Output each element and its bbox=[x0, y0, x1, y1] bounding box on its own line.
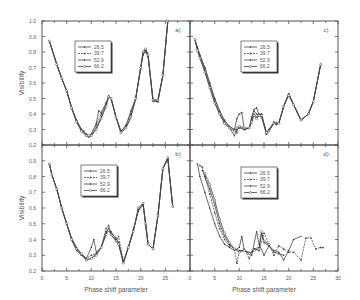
y-tick-label: 0.8 bbox=[29, 49, 36, 55]
legend-entry: 26.5 bbox=[94, 44, 104, 50]
y-tick-label: 0.4 bbox=[29, 111, 36, 117]
y-tick-label: 0.6 bbox=[29, 80, 36, 86]
panel-label: d) bbox=[323, 151, 328, 157]
legend-entry: 39.7 bbox=[94, 50, 104, 56]
legend-entry: 52.9 bbox=[100, 181, 110, 187]
legend-box bbox=[81, 165, 117, 196]
x-tick-label: 25 bbox=[163, 275, 169, 281]
x-tick-label: 20 bbox=[138, 275, 144, 281]
series-39-7 bbox=[49, 21, 167, 136]
x-tick-label: 25 bbox=[311, 275, 317, 281]
legend-box bbox=[241, 167, 277, 198]
legend-entry: 26.5 bbox=[260, 44, 270, 50]
x-tick-label: 5 bbox=[65, 275, 68, 281]
x-axis-title: Phase shift parameter bbox=[84, 286, 148, 294]
legend-entry: 26.5 bbox=[260, 170, 270, 176]
panel-label: c) bbox=[324, 27, 329, 33]
legends: 26.539.752.966.226.539.752.966.226.539.7… bbox=[75, 41, 279, 200]
panel-label: a) bbox=[175, 27, 180, 33]
panel-label: b) bbox=[175, 151, 180, 157]
x-tick-label: 5 bbox=[213, 275, 216, 281]
y-tick-label: 0.7 bbox=[29, 189, 36, 195]
legend-entry: 39.7 bbox=[260, 176, 270, 182]
y-tick-label: 0.5 bbox=[29, 221, 36, 227]
x-tick-label: 20 bbox=[286, 275, 292, 281]
x-tick-label: 15 bbox=[261, 275, 267, 281]
legend-entry: 52.9 bbox=[94, 57, 104, 63]
legend-box bbox=[241, 41, 277, 72]
legend-entry: 66.2 bbox=[100, 187, 110, 193]
series-26-5 bbox=[49, 21, 167, 136]
x-tick-label: 10 bbox=[237, 275, 243, 281]
y-axis-title: Visibility bbox=[18, 195, 26, 221]
y-tick-label: 0.5 bbox=[29, 96, 36, 102]
x-tick-label: 30 bbox=[335, 275, 341, 281]
panel-frame-d bbox=[190, 145, 338, 271]
y-tick-label: 0.2 bbox=[29, 268, 36, 274]
x-tick-label: 15 bbox=[113, 275, 119, 281]
series-66-2 bbox=[49, 21, 167, 136]
x-axis-title: Phase shift parameter bbox=[232, 286, 296, 294]
legend-entry: 66.2 bbox=[260, 189, 270, 195]
panel-frame-b bbox=[42, 145, 190, 271]
series-52-9 bbox=[49, 21, 167, 137]
y-tick-label: 0.3 bbox=[29, 252, 36, 258]
y-tick-label: 0.7 bbox=[29, 65, 36, 71]
y-axis-title: Visibility bbox=[18, 70, 26, 96]
legend-entry: 52.9 bbox=[260, 183, 270, 189]
y-tick-label: 0.4 bbox=[29, 237, 36, 243]
legend-entry: 52.9 bbox=[260, 57, 270, 63]
legend-entry: 39.7 bbox=[260, 50, 270, 56]
panel-frame-a bbox=[42, 21, 190, 145]
y-tick-label: 0.6 bbox=[29, 205, 36, 211]
axis-labels: 0.20.30.40.50.60.70.80.91.0Visibilitya)0… bbox=[18, 18, 341, 294]
y-tick-label: 0.9 bbox=[29, 34, 36, 40]
x-tick-label: 10 bbox=[89, 275, 95, 281]
legend-box bbox=[75, 41, 111, 72]
legend-entry: 66.2 bbox=[260, 63, 270, 69]
legend-entry: 66.2 bbox=[94, 63, 104, 69]
legend-entry: 26.5 bbox=[100, 168, 110, 174]
x-tick-label: 0 bbox=[189, 275, 192, 281]
x-tick-label: 0 bbox=[41, 275, 44, 281]
y-tick-label: 0.3 bbox=[29, 127, 36, 133]
y-tick-label: 0.8 bbox=[29, 174, 36, 180]
legend-entry: 39.7 bbox=[100, 174, 110, 180]
y-tick-label: 0.9 bbox=[29, 158, 36, 164]
figure-2x2-visibility: 26.539.752.966.226.539.752.966.226.539.7… bbox=[0, 0, 360, 300]
y-tick-label: 1.0 bbox=[29, 18, 36, 24]
y-tick-label: 0.2 bbox=[29, 142, 36, 148]
